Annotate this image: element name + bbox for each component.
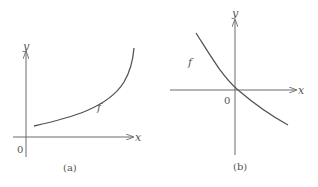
panel-b-curve-f [196, 33, 288, 125]
panel-b-curve-label: f [187, 56, 194, 69]
panel-a-y-label: y [22, 40, 30, 53]
panel-b-x-label: x [298, 84, 305, 97]
panel-a-curve-f [34, 48, 134, 126]
panel-b-caption: (b) [233, 161, 247, 172]
panel-b-origin-label: 0 [224, 95, 230, 106]
panel-a: y x 0 f (a) [13, 40, 142, 173]
panel-a-caption: (a) [63, 162, 77, 173]
panel-a-origin-label: 0 [17, 144, 23, 155]
panel-a-x-label: x [135, 131, 142, 144]
panel-b-y-label: y [231, 7, 239, 20]
panel-b: y x 0 f (b) [170, 7, 305, 172]
diagram-canvas: y x 0 f (a) y x 0 f (b) [0, 0, 318, 187]
